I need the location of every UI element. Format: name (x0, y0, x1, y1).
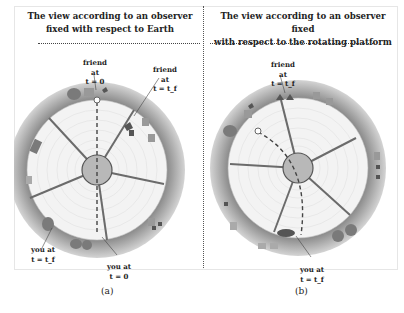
panel-a-title-line2: fixed with respect to Earth (20, 23, 200, 36)
label-text: t = 0 (104, 272, 134, 282)
start-marker (94, 97, 100, 103)
label-text: friend at (80, 58, 110, 77)
label-text: t = t_f (268, 79, 298, 89)
panel-a-separator (38, 43, 200, 44)
label-friend-tf: friend at t = t_f (150, 65, 180, 94)
label-text: t = t_f (297, 275, 327, 285)
caption-b: (b) (295, 286, 308, 296)
hub (283, 153, 313, 183)
panel-b-title-line1: The view according to an observer fixed (212, 10, 394, 36)
label-text: t = t_f (150, 84, 180, 94)
label-text: friend at (268, 60, 298, 79)
label-you-tf: you at t = t_f (28, 245, 58, 264)
label-text: you at (28, 245, 58, 255)
label-text: you at (297, 265, 327, 275)
panel-b-diagram (206, 60, 396, 260)
caption-a: (a) (101, 286, 113, 296)
label-text: t = 0 (80, 77, 110, 87)
panel-a-title: The view according to an observer fixed … (20, 10, 200, 36)
label-b-you-tf: you at t = t_f (297, 265, 327, 284)
label-you-t0: you at t = 0 (104, 262, 134, 281)
label-friend-t0: friend at t = 0 (80, 58, 110, 87)
panel-b-separator (210, 43, 375, 44)
start-marker (255, 128, 261, 134)
label-b-friend-tf: friend at t = t_f (268, 60, 298, 89)
panel-a-title-line1: The view according to an observer (20, 10, 200, 23)
label-text: friend at (150, 65, 180, 84)
label-text: you at (104, 262, 134, 272)
label-text: t = t_f (28, 255, 58, 265)
